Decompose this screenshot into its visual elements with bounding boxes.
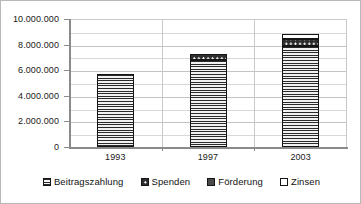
y-axis-line (69, 19, 71, 148)
legend-swatch-icon (141, 178, 149, 186)
x-axis-tick-mark (162, 147, 163, 151)
legend-item-spenden[interactable]: Spenden (141, 177, 191, 187)
legend-item-label: Beitragszahlung (54, 177, 124, 187)
gridline-vertical (254, 20, 255, 147)
bar-segment-beitragszahlung[interactable] (282, 46, 319, 147)
bar-segment-zinsen[interactable] (282, 34, 319, 38)
bar-segment-spenden[interactable] (282, 39, 319, 46)
bar-stack-1997[interactable] (190, 54, 227, 147)
x-axis-tick-label: 1993 (69, 153, 162, 162)
bar-segment-beitragszahlung[interactable] (97, 74, 134, 147)
x-axis-tick-mark (254, 147, 255, 151)
x-axis-tick-label: 1997 (162, 153, 255, 162)
legend-item-zinsen[interactable]: Zinsen (280, 177, 320, 187)
legend-item-beitragszahlung[interactable]: Beitragszahlung (43, 177, 124, 187)
chart-legend: Beitragszahlung Spenden Förderung Zinsen (1, 177, 361, 187)
bar-segment-spenden[interactable] (190, 54, 227, 60)
legend-swatch-icon (207, 178, 215, 186)
x-axis-tick-label: 2003 (254, 153, 347, 162)
y-axis-tick-label: 10.000.000 (13, 15, 59, 24)
y-axis-tick-label: 2.000.000 (18, 117, 59, 126)
gridline-vertical (162, 20, 163, 147)
x-axis-line (69, 147, 348, 149)
y-axis-tick-label: 8.000.000 (18, 41, 59, 50)
chart-figure: 10.000.000 8.000.000 6.000.000 4.000.000… (0, 0, 361, 204)
bar-segment-beitragszahlung[interactable] (190, 60, 227, 147)
bar-stack-2003[interactable] (282, 34, 319, 147)
legend-swatch-icon (43, 178, 51, 186)
legend-swatch-icon (280, 178, 288, 186)
plot-area (69, 19, 347, 147)
legend-item-label: Zinsen (291, 177, 320, 187)
y-axis-tick-label: 4.000.000 (18, 92, 59, 101)
legend-item-label: Förderung (218, 177, 263, 187)
bar-stack-1993[interactable] (97, 74, 134, 147)
y-axis-tick-label: 0 (54, 143, 59, 152)
legend-item-foerderung[interactable]: Förderung (207, 177, 263, 187)
legend-item-label: Spenden (152, 177, 191, 187)
y-axis-tick-label: 6.000.000 (18, 66, 59, 75)
